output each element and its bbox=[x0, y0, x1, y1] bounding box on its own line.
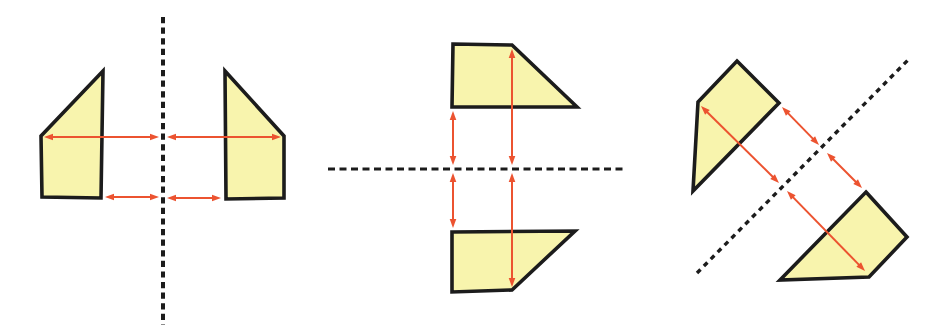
reflection-figure bbox=[0, 0, 933, 329]
lower-trapezoid bbox=[780, 192, 907, 280]
arrowhead bbox=[450, 173, 457, 182]
distance-arrow-shaft bbox=[787, 112, 815, 140]
panel-vertical-mirror bbox=[41, 17, 284, 325]
distance-arrow-shaft bbox=[832, 158, 857, 183]
arrowhead bbox=[105, 194, 114, 201]
top-trapezoid bbox=[452, 44, 577, 107]
arrowhead bbox=[450, 219, 457, 228]
left-trapezoid bbox=[41, 71, 103, 198]
arrowhead bbox=[150, 194, 159, 201]
arrowhead bbox=[509, 173, 516, 182]
arrowhead bbox=[450, 156, 457, 165]
arrowhead bbox=[509, 156, 516, 165]
page: { "colors": { "background": "#ffffff", "… bbox=[0, 0, 933, 329]
arrowhead bbox=[167, 195, 176, 202]
diagram-canvas bbox=[0, 0, 933, 329]
arrowhead bbox=[450, 111, 457, 120]
arrowhead bbox=[150, 134, 159, 141]
arrowhead bbox=[167, 134, 176, 141]
panel-diagonal-mirror bbox=[693, 60, 908, 280]
arrowhead bbox=[212, 195, 221, 202]
panel-horizontal-mirror bbox=[328, 44, 627, 292]
